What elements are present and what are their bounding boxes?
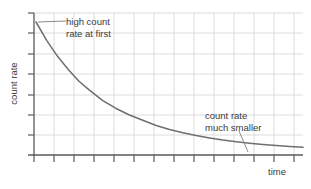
x-axis-label: time: [268, 166, 286, 177]
annotation-small-line-2: much smaller: [205, 122, 262, 133]
y-axis: [28, 13, 34, 156]
decay-curve-figure: high countrate at first count ratemuch s…: [0, 0, 311, 189]
y-axis-label: count rate: [8, 52, 19, 116]
x-axis: [28, 155, 303, 162]
decay-curve-line: [36, 22, 303, 147]
annotation-much-smaller: count ratemuch smaller: [205, 110, 262, 133]
chart-canvas: [0, 0, 311, 189]
annotation-high-count-rate: high countrate at first: [66, 16, 111, 39]
annotation-high-line-1: high count: [66, 16, 110, 27]
annotation-high-line-2: rate at first: [66, 28, 111, 39]
leader-line-high: [38, 21, 66, 22]
annotation-small-line-1: count rate: [205, 110, 247, 121]
